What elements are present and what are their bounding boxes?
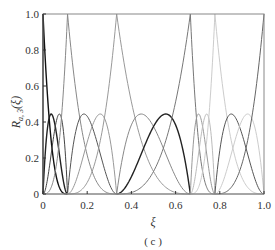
y-tick-label: 0.2 [25, 152, 39, 164]
x-tick-label: 1.0 [257, 199, 271, 211]
x-tick-label: 0.4 [125, 199, 139, 211]
basis-curve-span3-b2 [117, 114, 191, 194]
basis-curve-span1-b3 [43, 14, 68, 194]
basis-curve-span2-b2 [68, 114, 117, 194]
y-axis-label-arg: (ξ) [9, 96, 23, 109]
curves-layer [43, 14, 264, 194]
basis-curve-span5-b0 [215, 14, 264, 194]
basis-curve-span3-b3 [117, 14, 191, 194]
basis-curve-span5-b3 [215, 14, 264, 194]
y-axis-label: Ra, 3(ξ) [9, 96, 25, 129]
basis-curve-span2-b0 [68, 14, 117, 194]
figure-caption: ( c ) [144, 235, 162, 248]
x-tick-label: 0.6 [169, 199, 183, 211]
y-tick-label: 0 [34, 188, 40, 200]
x-tick-label: 0.2 [80, 199, 94, 211]
y-tick-label: 0.4 [25, 116, 39, 128]
y-tick-label: 1.0 [25, 8, 39, 20]
x-axis-label: ξ [150, 215, 156, 229]
basis-curve-span3-b0 [117, 14, 191, 194]
y-tick-label: 0.8 [25, 44, 39, 56]
x-tick-label: 0.8 [213, 199, 227, 211]
basis-curve-span1-b0 [43, 14, 68, 194]
x-tick-label: 0 [40, 199, 46, 211]
y-tick-label: 0.6 [25, 80, 39, 92]
y-axis-label-sub: a, 3 [16, 109, 25, 121]
basis-curve-span5-b2 [215, 114, 264, 194]
plot-frame [43, 14, 264, 194]
chart-figure: 00.20.40.60.81.0 00.20.40.60.81.0 Ra, 3(… [0, 0, 275, 250]
basis-curve-span4-b3 [190, 14, 215, 194]
basis-curve-span2-b3 [68, 14, 117, 194]
basis-curve-span4-b0 [190, 14, 215, 194]
